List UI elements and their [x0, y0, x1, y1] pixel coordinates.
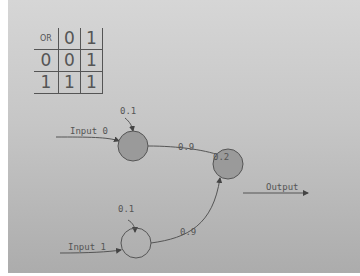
input-0-edge: [56, 137, 119, 141]
neural-network-diagram: Input 0 0.1 0.9 0.2 Output 0.1 Input 1 0…: [8, 0, 360, 273]
hidden-node-input-1: [121, 228, 151, 258]
weight-label-node-1: 0.9: [180, 227, 196, 237]
hidden-node-input-0: [118, 131, 148, 161]
bias-arrow-node-0: [125, 118, 133, 131]
bias-label-node-1: 0.1: [118, 204, 134, 214]
bias-label-output: 0.2: [213, 152, 229, 162]
output-label: Output: [266, 182, 299, 192]
input-1-label: Input 1: [68, 242, 106, 252]
input-0-label: Input 0: [70, 126, 108, 136]
diagram-canvas: OR 0 1 0 0 1 1 1 1: [8, 0, 360, 273]
bias-label-node-0: 0.1: [120, 106, 136, 116]
weight-label-node-0: 0.9: [178, 142, 194, 152]
